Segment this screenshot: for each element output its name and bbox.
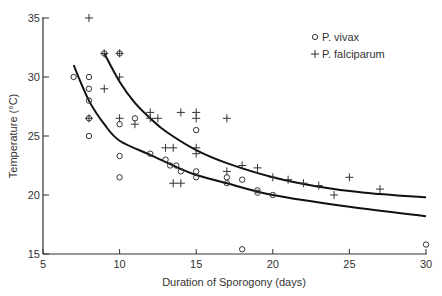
x-tick-label: 15 — [190, 258, 202, 270]
y-ticks: 1520253035 — [28, 12, 49, 260]
vivax-point — [132, 116, 137, 121]
falciparum-point — [223, 167, 231, 175]
falciparum-point — [154, 114, 162, 122]
falciparum-point — [100, 49, 108, 57]
falciparum-point — [169, 144, 177, 152]
fit-curves — [74, 53, 426, 216]
legend-label-falciparum: P. falciparum — [322, 48, 385, 60]
y-tick-label: 20 — [28, 189, 40, 201]
vivax-point — [224, 175, 229, 180]
falciparum-point — [100, 85, 108, 93]
vivax-point — [239, 177, 244, 182]
falciparum-point — [330, 191, 338, 199]
vivax-point — [86, 74, 91, 79]
x-axis-title: Duration of Sporogony (days) — [162, 276, 306, 288]
vivax-point — [117, 175, 122, 180]
circle-marker-icon — [312, 34, 317, 39]
falciparum-point — [376, 185, 384, 193]
legend-item-falciparum: P. falciparum — [311, 48, 385, 60]
vivax-point — [194, 127, 199, 132]
fit-curve-p-falciparum — [104, 53, 426, 197]
x-ticks: 51015202530 — [40, 249, 432, 270]
vivax-point — [423, 242, 428, 247]
falciparum-point — [85, 14, 93, 22]
falciparum-point — [192, 114, 200, 122]
vivax-point — [86, 133, 91, 138]
y-tick-label: 15 — [28, 248, 40, 260]
vivax-point — [86, 86, 91, 91]
y-tick-label: 25 — [28, 130, 40, 142]
falciparum-point — [315, 182, 323, 190]
falciparum-point — [162, 144, 170, 152]
legend: P. vivax P. falciparum — [311, 31, 385, 60]
vivax-point — [71, 74, 76, 79]
falciparum-point — [116, 49, 124, 57]
vivax-point — [117, 122, 122, 127]
vivax-point — [239, 247, 244, 252]
x-tick-label: 25 — [343, 258, 355, 270]
y-tick-label: 30 — [28, 71, 40, 83]
scatter-chart: 51015202530 1520253035 Duration of Sporo… — [0, 0, 442, 296]
falciparum-point — [177, 179, 185, 187]
falciparum-point — [269, 173, 277, 181]
falciparum-point — [116, 114, 124, 122]
y-tick-label: 35 — [28, 12, 40, 24]
falciparum-point — [345, 173, 353, 181]
plus-marker-icon — [311, 50, 319, 58]
falciparum-point — [253, 164, 261, 172]
falciparum-point — [116, 73, 124, 81]
falciparum-point — [223, 114, 231, 122]
falciparum-point — [299, 179, 307, 187]
legend-item-vivax: P. vivax — [312, 31, 359, 43]
falciparum-point — [177, 108, 185, 116]
legend-label-vivax: P. vivax — [322, 31, 360, 43]
vivax-point — [194, 169, 199, 174]
x-tick-label: 20 — [267, 258, 279, 270]
x-tick-label: 10 — [113, 258, 125, 270]
y-axis-title: Temperature (°C) — [7, 94, 19, 178]
falciparum-point — [131, 120, 139, 128]
x-tick-label: 30 — [420, 258, 432, 270]
x-tick-label: 5 — [40, 258, 46, 270]
falciparum-point — [85, 114, 93, 122]
falciparum-point — [169, 179, 177, 187]
vivax-point — [117, 153, 122, 158]
